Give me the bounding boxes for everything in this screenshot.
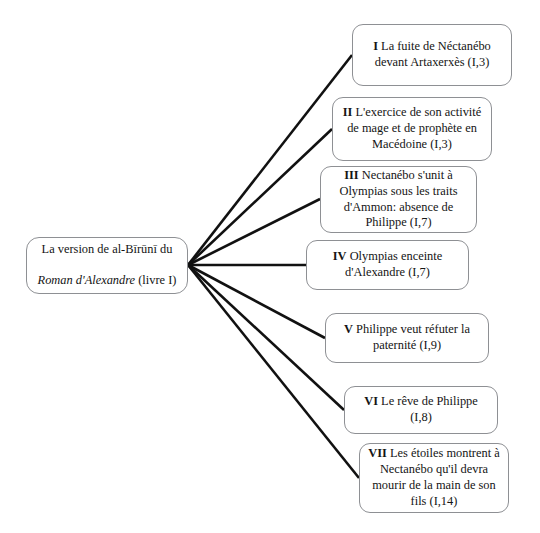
chapter-node-3[interactable]: III Nectanébo s'unit à Olympias sous les… bbox=[320, 166, 477, 233]
chapter-text-2: L'exercice de son activité de mage et de… bbox=[347, 105, 481, 151]
edge-root-to-chapter-1 bbox=[188, 55, 352, 265]
root-line-2: Roman d'Alexandre (livre I) bbox=[34, 273, 180, 289]
chapter-node-6[interactable]: VI Le rêve de Philippe (I,8) bbox=[344, 386, 498, 434]
chapter-node-5[interactable]: V Philippe veut réfuter la paternité (I,… bbox=[325, 313, 489, 363]
edge-root-to-chapter-7 bbox=[188, 265, 359, 478]
chapter-text-6: Le rêve de Philippe (I,8) bbox=[378, 394, 478, 424]
root-line-1: La version de al-Bīrūnī du bbox=[34, 242, 180, 258]
root-work-title: Roman d'Alexandre bbox=[38, 273, 136, 287]
chapter-text-7: Les étoiles montrent à Nectanébo qu'il d… bbox=[372, 446, 499, 508]
chapter-node-5-label: V Philippe veut réfuter la paternité (I,… bbox=[333, 322, 481, 354]
chapter-numeral-2: II bbox=[343, 105, 353, 119]
chapter-node-4-label: IV Olympias enceinte d'Alexandre (I,7) bbox=[314, 249, 461, 281]
chapter-text-4: Olympias enceinte d'Alexandre (I,7) bbox=[345, 249, 442, 279]
chapter-numeral-4: IV bbox=[333, 249, 347, 263]
chapter-node-1-label: I La fuite de Néctanébo devant Artaxerxè… bbox=[360, 39, 504, 71]
chapter-node-2[interactable]: II L'exercice de son activité de mage et… bbox=[332, 97, 492, 161]
chapter-node-2-label: II L'exercice de son activité de mage et… bbox=[340, 105, 484, 153]
chapter-numeral-7: VII bbox=[368, 446, 387, 460]
diagram-canvas: La version de al-Bīrūnī du Roman d'Alexa… bbox=[0, 0, 540, 533]
chapter-node-3-label: III Nectanébo s'unit à Olympias sous les… bbox=[328, 168, 469, 232]
chapter-text-1: La fuite de Néctanébo devant Artaxerxès … bbox=[375, 39, 491, 69]
root-node-label: La version de al-Bīrūnī du Roman d'Alexa… bbox=[34, 226, 180, 305]
chapter-numeral-5: V bbox=[344, 322, 353, 336]
chapter-node-7[interactable]: VII Les étoiles montrent à Nectanébo qu'… bbox=[359, 443, 509, 513]
root-book-ref: (livre I) bbox=[135, 273, 176, 287]
edge-root-to-chapter-3 bbox=[188, 199, 320, 265]
chapter-text-5: Philippe veut réfuter la paternité (I,9) bbox=[353, 322, 470, 352]
chapter-node-1[interactable]: I La fuite de Néctanébo devant Artaxerxè… bbox=[352, 24, 512, 86]
chapter-node-4[interactable]: IV Olympias enceinte d'Alexandre (I,7) bbox=[306, 240, 469, 290]
chapter-numeral-6: VI bbox=[364, 394, 378, 408]
root-node[interactable]: La version de al-Bīrūnī du Roman d'Alexa… bbox=[26, 237, 188, 294]
chapter-node-6-label: VI Le rêve de Philippe (I,8) bbox=[352, 394, 490, 426]
chapter-node-7-label: VII Les étoiles montrent à Nectanébo qu'… bbox=[367, 446, 501, 510]
chapter-numeral-3: III bbox=[344, 168, 358, 182]
